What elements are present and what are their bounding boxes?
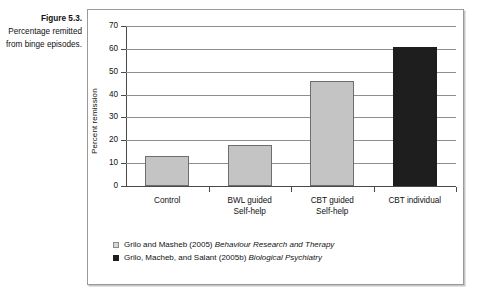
x-tick-label-line: CBT individual xyxy=(374,196,457,207)
figure-caption: Figure 5.3. Percentage remitted from bin… xyxy=(0,12,82,51)
y-tick-label-30: 30 xyxy=(94,112,118,121)
legend-label-plain: Grilo, Macheb, and Salant (2005b) xyxy=(124,253,249,262)
x-tick-label-line: CBT guided xyxy=(291,196,374,207)
x-tick-label-line: BWL guided xyxy=(209,196,292,207)
x-tick-label-2: BWL guidedSelf-help xyxy=(209,196,292,217)
bar-3 xyxy=(310,81,354,186)
bar-1 xyxy=(145,156,189,186)
legend-swatch-light xyxy=(113,242,119,248)
y-tick-label-10: 10 xyxy=(94,158,118,167)
y-tick-label-0: 0 xyxy=(94,181,118,190)
x-tick-label-line: Control xyxy=(126,196,209,207)
legend-label-2: Grilo, Macheb, and Salant (2005b) Biolog… xyxy=(124,252,322,264)
x-tick-2 xyxy=(291,187,292,192)
x-tick-4 xyxy=(456,187,457,192)
x-tick-label-4: CBT individual xyxy=(374,196,457,207)
y-tick-label-60: 60 xyxy=(94,44,118,53)
y-tick-60 xyxy=(121,49,126,50)
y-tick-0 xyxy=(121,186,126,187)
figure-caption-text: Percentage remitted from binge episodes. xyxy=(0,25,82,51)
y-tick-20 xyxy=(121,140,126,141)
legend-item-2: Grilo, Macheb, and Salant (2005b) Biolog… xyxy=(113,252,334,264)
figure-number: Figure 5.3. xyxy=(0,12,82,25)
x-tick-label-3: CBT guidedSelf-help xyxy=(291,196,374,217)
legend-label-1: Grilo and Masheb (2005) Behaviour Resear… xyxy=(124,239,334,251)
y-tick-label-50: 50 xyxy=(94,67,118,76)
x-tick-label-line: Self-help xyxy=(209,207,292,218)
y-tick-label-70: 70 xyxy=(94,21,118,30)
x-tick-3 xyxy=(374,187,375,192)
y-tick-40 xyxy=(121,95,126,96)
legend-item-1: Grilo and Masheb (2005) Behaviour Resear… xyxy=(113,239,334,251)
bar-4 xyxy=(393,47,437,186)
y-tick-10 xyxy=(121,163,126,164)
y-tick-30 xyxy=(121,117,126,118)
x-tick-label-1: Control xyxy=(126,196,209,207)
legend-label-plain: Grilo and Masheb (2005) xyxy=(124,240,215,249)
chart-legend: Grilo and Masheb (2005) Behaviour Resear… xyxy=(113,239,334,265)
y-tick-50 xyxy=(121,72,126,73)
legend-swatch-dark xyxy=(113,255,119,261)
legend-label-journal: Behaviour Research and Therapy xyxy=(215,240,335,249)
plot-region xyxy=(126,26,456,186)
y-tick-70 xyxy=(121,26,126,27)
y-tick-label-20: 20 xyxy=(94,135,118,144)
gridline-70 xyxy=(126,26,456,27)
figure-box: Percent remission ControlBWL guidedSelf-… xyxy=(87,9,464,285)
y-tick-label-40: 40 xyxy=(94,90,118,99)
bar-2 xyxy=(228,145,272,186)
x-tick-1 xyxy=(209,187,210,192)
legend-label-journal: Biological Psychiatry xyxy=(249,253,322,262)
x-tick-label-line: Self-help xyxy=(291,207,374,218)
